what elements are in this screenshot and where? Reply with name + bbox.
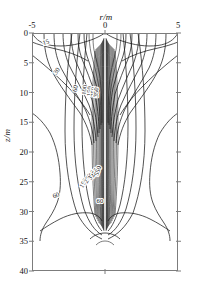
contour-plot-figure: r/m z/m -505 0510152025303540 <box>0 0 212 288</box>
y-tick-label: 10 <box>12 88 28 98</box>
x-tick-label: 0 <box>103 20 107 30</box>
y-tick-label: 0 <box>12 28 28 38</box>
contour-label: 30 <box>52 65 62 75</box>
y-tick-label: 15 <box>12 117 28 127</box>
y-tick-label: 5 <box>12 58 28 68</box>
y-tick-label: 40 <box>12 266 28 276</box>
y-tick-label: 30 <box>12 207 28 217</box>
x-tick-label: -5 <box>28 20 35 30</box>
y-tick-label: 25 <box>12 177 28 187</box>
contour-canvas: 1515303060601001001501502502503503506060… <box>32 33 178 271</box>
contour-label: 350 <box>92 87 99 98</box>
y-axis-title: z/m <box>2 129 12 142</box>
plot-area: 1515303060601001001501502502503503506060… <box>32 33 178 271</box>
y-tick-label: 20 <box>12 147 28 157</box>
contour-lines <box>32 33 178 245</box>
y-tick-label: 35 <box>12 236 28 246</box>
contour-label: 60 <box>97 197 104 204</box>
x-tick-label: 5 <box>176 20 180 30</box>
